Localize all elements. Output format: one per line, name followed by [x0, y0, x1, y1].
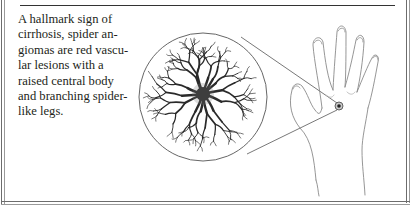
vessel-branch: [225, 76, 233, 77]
lesion-on-hand-center: [337, 104, 341, 108]
lesion-central-halo: [192, 83, 214, 105]
magnified-spider-angioma: [139, 33, 267, 161]
vessel-branch: [215, 124, 216, 134]
medical-illustration: [0, 0, 412, 206]
vessel-branch: [170, 102, 185, 103]
